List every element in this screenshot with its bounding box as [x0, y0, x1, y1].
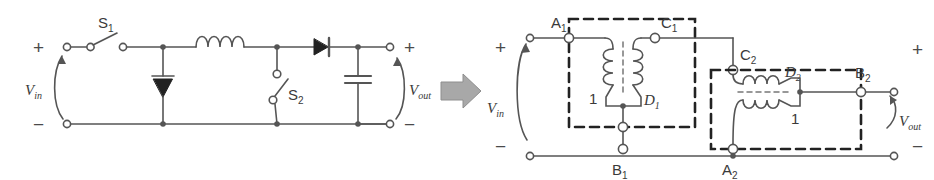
right-out-plus-terminal	[890, 88, 897, 95]
coil2-upper	[743, 76, 779, 84]
node-c1-label: C1	[661, 14, 678, 34]
node-a2	[730, 153, 736, 159]
inductor-coil	[196, 37, 244, 48]
left-in-minus-sign: −	[33, 114, 44, 135]
vin-label-left: Vin	[25, 82, 42, 101]
s1-label: S1	[98, 14, 114, 34]
node-b2-label: B2	[855, 64, 871, 84]
s2-pole-top	[273, 70, 281, 78]
left-out-minus-sign: −	[404, 114, 415, 135]
vout-label-left: Vout	[409, 82, 431, 101]
s2-pole-bottom	[269, 96, 277, 104]
node-c1	[650, 33, 659, 42]
vout-arrowhead-right	[890, 96, 897, 105]
right-out-minus-terminal	[890, 152, 897, 159]
node-a1-label: A1	[551, 14, 567, 34]
cell-d1-device-label: D1	[643, 92, 660, 111]
coil2-lower	[743, 100, 779, 108]
left-circuit: + − + −	[33, 33, 415, 135]
node-a1	[564, 33, 573, 42]
right-in-minus-terminal	[526, 152, 533, 159]
coil2-lead-upper	[733, 75, 743, 84]
left-in-plus-terminal	[63, 43, 70, 50]
left-in-plus-sign: +	[33, 37, 44, 58]
node-a2-label: A2	[722, 161, 738, 180]
node-c2-label: C2	[740, 46, 757, 66]
left-out-plus-terminal	[386, 43, 393, 50]
cell-d2-turns-label: 1	[791, 110, 799, 127]
right-in-plus-sign: +	[495, 37, 506, 58]
right-circuit-labels: A1 C1 B1 C2 A2 B2 D1 1 D2 1 Vin Vout	[487, 14, 921, 180]
vin-arc	[55, 56, 63, 119]
coil1-left	[603, 49, 613, 85]
circuit-diagram-svg: + − + −	[0, 0, 934, 180]
right-in-plus-terminal	[526, 34, 533, 41]
vout-label-right: Vout	[899, 113, 921, 132]
s1-blade	[93, 33, 117, 45]
vin-arrowhead-right	[521, 44, 530, 53]
s2-label: S2	[288, 86, 304, 106]
right-out-plus-sign: +	[912, 39, 923, 60]
s1-pole-right	[119, 43, 126, 50]
coil2-lead-lower	[733, 100, 743, 144]
left-circuit-labels: S1 S2 Vin Vout	[25, 14, 431, 106]
coil1-lead-top-right	[633, 38, 641, 49]
node-a2-box	[728, 144, 737, 153]
s2-blade	[275, 79, 288, 96]
figure-canvas: + − + −	[0, 0, 934, 180]
coil1-right	[633, 49, 643, 85]
left-in-minus-terminal	[63, 120, 70, 127]
transform-arrow	[441, 74, 481, 108]
left-out-minus-terminal	[386, 120, 393, 127]
node-b1	[618, 144, 627, 153]
right-out-minus-sign: −	[912, 136, 923, 157]
node-b1-box	[618, 122, 627, 131]
right-circuit: + − + −	[495, 19, 923, 160]
vout-arc-left	[396, 58, 404, 119]
vin-arc-right	[517, 44, 527, 140]
diode-series-triangle	[314, 39, 328, 55]
cell-d1-box	[569, 19, 695, 127]
left-out-plus-sign: +	[404, 37, 415, 58]
node-b2	[856, 87, 865, 96]
coil1-lead-top	[605, 38, 613, 49]
right-in-minus-sign: −	[495, 136, 506, 157]
cell-d1-turns-label: 1	[589, 90, 597, 107]
node-b1-label: B1	[612, 161, 628, 180]
diode-shunt-triangle	[154, 79, 173, 97]
vin-label-right: Vin	[487, 100, 504, 119]
